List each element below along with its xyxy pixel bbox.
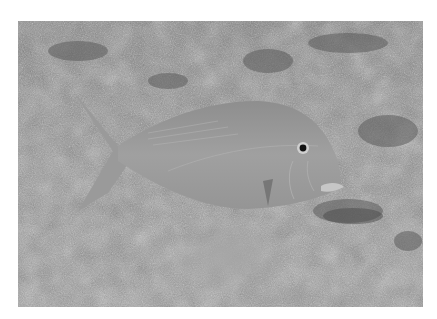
fish-photo <box>18 21 423 307</box>
fish-photo-graphic <box>18 21 423 307</box>
